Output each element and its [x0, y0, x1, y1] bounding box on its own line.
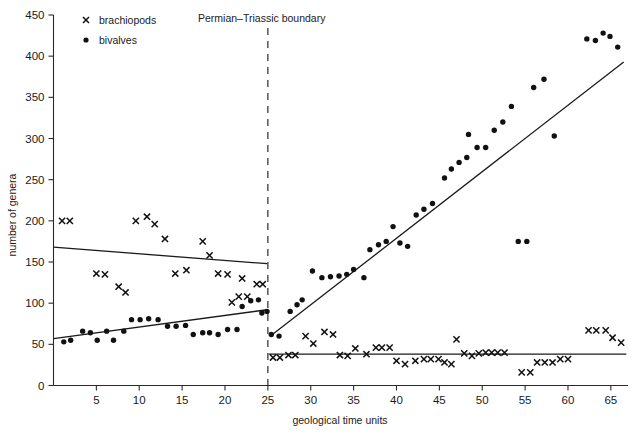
data-point-bivalves — [397, 240, 402, 245]
data-point-bivalves — [615, 44, 620, 49]
data-point-brachiopods — [453, 336, 459, 342]
y-tick-label: 50 — [32, 338, 45, 350]
data-point-bivalves — [500, 119, 505, 124]
data-point-bivalves — [95, 338, 100, 343]
data-point-bivalves — [405, 244, 410, 249]
data-point-bivalves — [191, 332, 196, 337]
x-tick-label: 10 — [133, 394, 146, 406]
data-point-brachiopods — [379, 345, 385, 351]
data-point-bivalves — [68, 338, 73, 343]
data-point-brachiopods — [542, 359, 548, 365]
data-point-bivalves — [111, 338, 116, 343]
data-point-bivalves — [104, 328, 109, 333]
y-axis-title: number of genera — [6, 173, 18, 256]
data-point-bivalves — [294, 302, 299, 307]
data-point-bivalves — [165, 324, 170, 329]
data-point-brachiopods — [428, 356, 434, 362]
data-point-bivalves — [361, 275, 366, 280]
data-point-bivalves — [207, 330, 212, 335]
data-point-bivalves — [61, 339, 66, 344]
data-point-bivalves — [234, 327, 239, 332]
data-point-bivalves — [88, 330, 93, 335]
data-point-bivalves — [552, 133, 557, 138]
data-point-brachiopods — [229, 299, 235, 305]
data-point-brachiopods — [352, 345, 358, 351]
data-point-bivalves — [183, 323, 188, 328]
data-point-bivalves — [215, 332, 220, 337]
data-point-brachiopods — [441, 359, 447, 365]
data-point-brachiopods — [236, 293, 242, 299]
x-tick-label: 15 — [176, 394, 189, 406]
data-point-brachiopods — [172, 270, 178, 276]
data-point-bivalves — [328, 274, 333, 279]
series-bivalves-points — [61, 30, 620, 344]
data-point-bivalves — [376, 242, 381, 247]
data-point-bivalves — [442, 175, 447, 180]
x-axis-title: geological time units — [292, 414, 387, 426]
data-point-brachiopods — [200, 238, 206, 244]
data-point-bivalves — [367, 247, 372, 252]
x-tick-label: 40 — [390, 394, 403, 406]
legend-label-bivalves: bivalves — [99, 34, 137, 46]
data-point-brachiopods — [435, 356, 441, 362]
data-point-bivalves — [531, 85, 536, 90]
data-point-brachiopods — [183, 267, 189, 273]
data-point-brachiopods — [412, 358, 418, 364]
data-point-bivalves — [414, 212, 419, 217]
x-tick-label: 30 — [304, 394, 317, 406]
legend-label-brachiopods: brachiopods — [99, 14, 156, 26]
data-point-brachiopods — [461, 350, 467, 356]
data-point-brachiopods — [402, 361, 408, 367]
data-point-brachiopods — [549, 359, 555, 365]
data-point-bivalves — [524, 239, 529, 244]
trend-line-bivalves-pre-boundary — [54, 310, 268, 339]
data-point-bivalves — [584, 36, 589, 41]
data-point-bivalves — [80, 328, 85, 333]
data-point-bivalves — [256, 297, 261, 302]
data-point-bivalves — [248, 298, 253, 303]
data-point-brachiopods — [206, 252, 212, 258]
data-point-bivalves — [336, 273, 341, 278]
data-point-brachiopods — [593, 327, 599, 333]
y-axis-ticks — [49, 15, 54, 386]
x-axis-tick-labels: 5101520253035404550556065 — [93, 394, 617, 406]
data-point-brachiopods — [162, 236, 168, 242]
data-point-bivalves — [430, 201, 435, 206]
data-point-bivalves — [474, 145, 479, 150]
data-point-bivalves — [492, 128, 497, 133]
dot-marker-icon — [83, 37, 88, 42]
data-point-brachiopods — [302, 333, 308, 339]
data-point-bivalves — [259, 310, 264, 315]
y-tick-label: 0 — [38, 380, 44, 392]
data-point-bivalves — [464, 155, 469, 160]
data-point-bivalves — [264, 309, 269, 314]
x-tick-label: 35 — [347, 394, 360, 406]
data-point-brachiopods — [59, 218, 65, 224]
series-brachiopods-points — [59, 214, 624, 376]
data-point-brachiopods — [260, 281, 266, 287]
data-point-brachiopods — [102, 271, 108, 277]
data-point-bivalves — [287, 309, 292, 314]
x-tick-label: 60 — [562, 394, 575, 406]
data-point-bivalves — [516, 239, 521, 244]
trend-line-brachiopods-pre-boundary — [54, 247, 268, 263]
legend-item-bivalves: bivalves — [83, 34, 137, 46]
data-point-bivalves — [509, 104, 514, 109]
data-point-bivalves — [146, 316, 151, 321]
data-point-brachiopods — [565, 356, 571, 362]
data-point-brachiopods — [603, 327, 609, 333]
data-point-bivalves — [299, 297, 304, 302]
data-point-bivalves — [310, 268, 315, 273]
x-tick-label: 20 — [219, 394, 232, 406]
data-point-brachiopods — [292, 352, 298, 358]
data-point-brachiopods — [330, 331, 336, 337]
data-point-brachiopods — [609, 335, 615, 341]
data-point-brachiopods — [519, 369, 525, 375]
data-point-bivalves — [121, 328, 126, 333]
data-point-brachiopods — [116, 284, 122, 290]
data-point-brachiopods — [67, 218, 73, 224]
data-point-bivalves — [239, 304, 244, 309]
x-tick-label: 50 — [476, 394, 489, 406]
x-axis-ticks — [96, 386, 610, 391]
data-point-bivalves — [390, 224, 395, 229]
